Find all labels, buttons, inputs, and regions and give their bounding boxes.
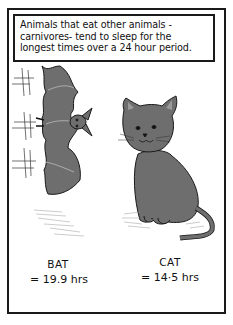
perch-lines-icon — [12, 68, 36, 178]
cat-label: CAT — [150, 256, 190, 268]
cat-illustration-icon — [118, 96, 212, 238]
bat-shadow-icon — [34, 210, 84, 236]
bat-label: BAT — [38, 258, 78, 270]
bat-illustration-icon — [36, 66, 92, 194]
bat-sleep-value: = 19.9 hrs — [24, 273, 94, 286]
cat-sleep-value: = 14·5 hrs — [134, 271, 206, 284]
